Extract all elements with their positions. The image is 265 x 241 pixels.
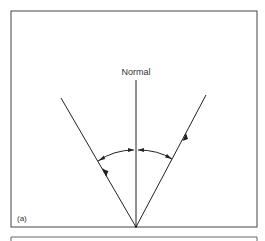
- arc-arrow-left-top-icon: [128, 148, 134, 152]
- normal-label: Normal: [121, 67, 150, 77]
- reflection-diagram: Normal (a): [0, 0, 265, 241]
- arc-arrow-right-end-icon: [165, 154, 172, 159]
- panel-label: (a): [17, 214, 27, 223]
- reflected-ray: [136, 95, 206, 227]
- incident-ray: [61, 98, 136, 227]
- next-panel-frame: [11, 237, 257, 241]
- arc-arrow-right-top-icon: [138, 148, 144, 152]
- reflection-point: [135, 225, 137, 227]
- incident-arrow-icon: [103, 170, 109, 177]
- panel-frame: [11, 11, 257, 227]
- arc-arrow-left-end-icon: [98, 156, 105, 162]
